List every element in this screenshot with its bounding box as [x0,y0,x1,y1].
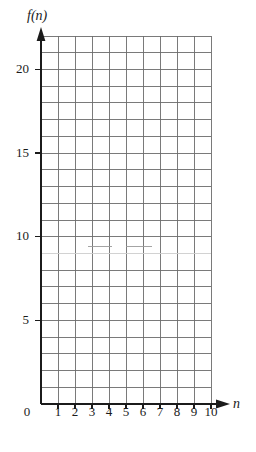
y-tick-label-10: 10 [3,228,29,244]
up-arrow-icon [37,27,46,41]
x-tick-label-10: 10 [199,404,223,420]
origin-label: 0 [18,404,36,420]
y-tick-label-20: 20 [3,61,29,77]
coordinate-grid-figure: f(n) n 0 5 10 15 20 1 2 3 4 5 6 7 8 9 10 [0,0,256,452]
grid-canvas [0,0,256,452]
x-axis-label: n [233,396,240,412]
y-axis-label: f(n) [27,8,47,24]
y-tick-label-15: 15 [3,145,29,161]
y-tick-label-5: 5 [3,312,29,328]
